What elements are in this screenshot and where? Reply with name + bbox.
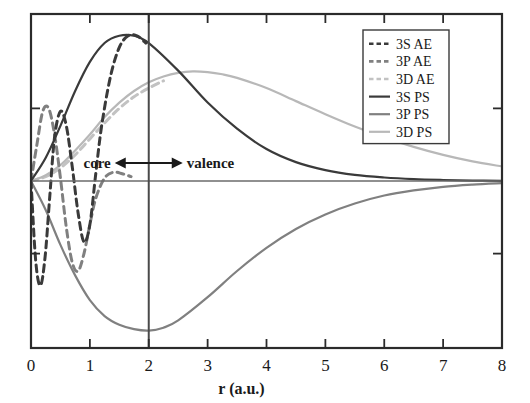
x-tick-label: 3 [203,356,212,375]
x-tick-label: 4 [262,356,271,375]
curve-3p-ps [31,181,502,331]
legend-label: 3P PS [396,107,429,122]
x-tick-label: 5 [321,356,330,375]
core-label: core [84,155,112,171]
annotation-layer: corevalence [84,155,235,171]
x-tick-label: 7 [439,356,448,375]
legend-label: 3S AE [396,37,432,52]
x-tick-label: 6 [380,356,389,375]
legend-label: 3S PS [396,90,430,105]
x-axis-title: r (a.u.) [218,380,264,398]
x-tick-label: 2 [145,356,154,375]
valence-label: valence [187,155,235,171]
x-tick-label: 8 [498,356,507,375]
plot-canvas: 012345678r (a.u.) corevalence 3S AE3P AE… [0,0,530,403]
x-tick-label: 0 [27,356,36,375]
legend-label: 3P AE [396,54,432,69]
legend-label: 3D AE [396,72,435,87]
pseudopotential-wavefunction-figure: 012345678r (a.u.) corevalence 3S AE3P AE… [0,0,530,403]
x-tick-label: 1 [86,356,95,375]
legend-layer: 3S AE3P AE3D AE3S PS3P PS3D PS [363,30,449,144]
legend-label: 3D PS [396,125,432,140]
